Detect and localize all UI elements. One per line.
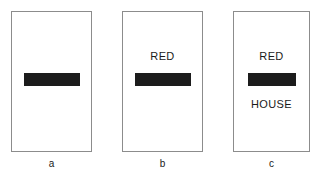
- panel-caption-b: b: [122, 158, 203, 170]
- panel-c-word-bottom: HOUSE: [234, 98, 309, 111]
- panel-frame-c: RED HOUSE: [233, 11, 310, 152]
- panel-group-b: RED b: [122, 0, 203, 183]
- panel-frame-b: RED: [122, 11, 203, 152]
- panel-caption-a: a: [11, 158, 92, 170]
- panel-caption-c: c: [233, 158, 310, 170]
- panel-group-a: a: [11, 0, 92, 183]
- panel-frame-a: [11, 11, 92, 152]
- panel-c-word-top: RED: [234, 50, 309, 63]
- figure-three-panel-stimuli: a RED b RED HOUSE c: [0, 0, 321, 183]
- panel-b-word-top: RED: [123, 50, 202, 63]
- occluder-bar-icon-c: [248, 73, 296, 86]
- occluder-bar-icon-b: [135, 73, 191, 86]
- panel-group-c: RED HOUSE c: [233, 0, 310, 183]
- occluder-bar-icon-a: [24, 73, 80, 86]
